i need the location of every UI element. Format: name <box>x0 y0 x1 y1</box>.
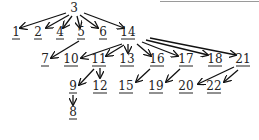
node-14: 14 <box>120 25 136 39</box>
node-label: 14 <box>120 25 136 39</box>
node-label: 13 <box>119 52 134 66</box>
node-4: 4 <box>56 25 64 39</box>
node-6: 6 <box>99 25 107 39</box>
node-11: 11 <box>91 52 106 66</box>
node-label: 2 <box>34 25 42 39</box>
node-20: 20 <box>178 79 193 93</box>
node-22: 22 <box>206 79 221 93</box>
node-label: 11 <box>91 52 106 66</box>
node-15: 15 <box>118 79 133 93</box>
node-label: 7 <box>41 52 49 66</box>
node-2: 2 <box>34 25 42 39</box>
node-label: 22 <box>206 79 221 93</box>
node-label: 16 <box>149 52 164 66</box>
node-label: 10 <box>63 52 78 66</box>
node-label: 12 <box>92 79 107 93</box>
node-17: 17 <box>178 52 193 66</box>
node-7: 7 <box>41 52 49 66</box>
node-label: 5 <box>77 25 85 39</box>
node-16: 16 <box>149 52 164 66</box>
node-label: 19 <box>148 79 163 93</box>
node-label: 17 <box>178 52 193 66</box>
node-label: 20 <box>178 79 193 93</box>
node-5: 5 <box>77 25 85 39</box>
node-12: 12 <box>92 79 107 93</box>
node-label: 21 <box>235 52 250 66</box>
node-18: 18 <box>207 52 222 66</box>
node-13: 13 <box>119 52 134 66</box>
tree-svg: 31245614710111316171821912151920228 <box>0 0 259 140</box>
node-label: 9 <box>69 79 77 93</box>
node-label: 1 <box>12 25 20 39</box>
arrow-21-to-22 <box>224 70 238 82</box>
node-1: 1 <box>12 25 20 39</box>
tree-diagram: 31245614710111316171821912151920228 <box>0 0 259 140</box>
node-3: 3 <box>70 1 78 15</box>
node-label: 3 <box>70 1 78 15</box>
node-10: 10 <box>63 52 78 66</box>
node-label: 4 <box>56 25 64 39</box>
node-label: 18 <box>207 52 222 66</box>
node-8: 8 <box>69 105 77 119</box>
node-9: 9 <box>69 79 77 93</box>
node-21: 21 <box>235 52 250 66</box>
node-label: 6 <box>99 25 107 39</box>
node-label: 15 <box>118 79 133 93</box>
node-19: 19 <box>148 79 163 93</box>
node-label: 8 <box>69 105 77 119</box>
